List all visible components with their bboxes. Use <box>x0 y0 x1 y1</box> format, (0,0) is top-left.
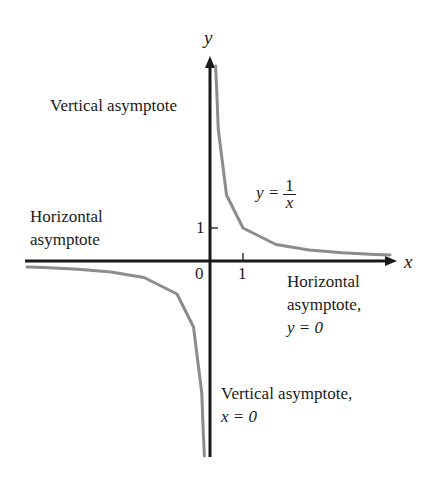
origin-label: 0 <box>195 264 204 283</box>
vertical-asymptote-label-top: Vertical asymptote <box>50 96 177 115</box>
function-fraction: 1x <box>283 178 296 211</box>
y-axis-arrow-icon <box>205 56 215 68</box>
curve-left-branch <box>27 267 204 456</box>
function-lhs: y = <box>256 183 279 202</box>
horizontal-asymptote-label-right-2: asymptote, <box>287 295 361 314</box>
x-tick-1-label: 1 <box>238 264 247 283</box>
y-axis <box>205 56 215 457</box>
horizontal-asymptote-label-right-1: Horizontal <box>287 272 360 291</box>
vertical-asymptote-label-bottom-1: Vertical asymptote, <box>221 384 352 403</box>
horizontal-asymptote-label-left-2: asymptote <box>30 230 100 249</box>
x-axis-label: x <box>404 252 412 271</box>
function-label: y =1x <box>256 178 296 211</box>
horizontal-asymptote-label-left-1: Horizontal <box>30 207 103 226</box>
function-denominator: x <box>286 195 294 211</box>
vertical-asymptote-label-bottom-2: x = 0 <box>221 407 257 426</box>
x-axis-arrow-icon <box>385 256 397 266</box>
curve-right-branch <box>216 66 390 255</box>
y-axis-label: y <box>204 28 212 47</box>
horizontal-asymptote-label-right-3: y = 0 <box>287 318 323 337</box>
y-tick-1-label: 1 <box>196 218 205 237</box>
